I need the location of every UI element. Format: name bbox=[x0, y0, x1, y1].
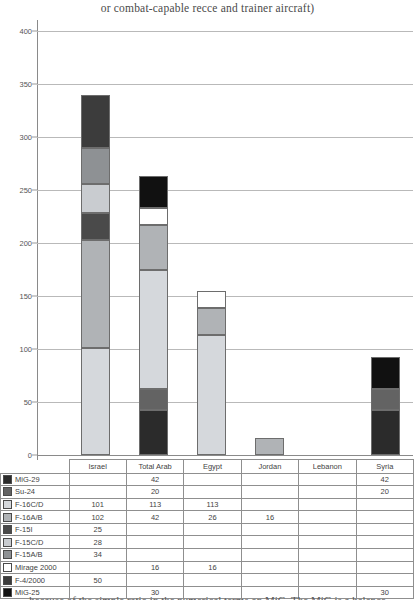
legend-swatch-icon bbox=[3, 538, 12, 547]
bar-segment-f-16a-b bbox=[197, 308, 226, 336]
bar-segment-f-16c-d bbox=[197, 335, 226, 455]
table-cell-syria bbox=[356, 523, 413, 536]
y-tick-label-400: 400 bbox=[19, 27, 32, 36]
table-cell-total-arab: 16 bbox=[126, 561, 183, 574]
table-cell-egypt bbox=[184, 486, 241, 499]
table-cell-syria bbox=[356, 511, 413, 524]
footer-clipped-text: because of the simple ratio in the numer… bbox=[0, 594, 415, 600]
bar-syria bbox=[371, 20, 400, 460]
y-tick-label-300: 300 bbox=[19, 133, 32, 142]
legend-label: F-15A/B bbox=[15, 550, 43, 559]
bar-segment-mig-29 bbox=[139, 410, 168, 455]
bar-total-arab bbox=[139, 20, 168, 460]
table-cell-lebanon bbox=[299, 561, 356, 574]
legend-swatch-icon bbox=[3, 563, 12, 572]
table-row: F-16C/D101113113 bbox=[1, 498, 414, 511]
table-cell-lebanon bbox=[299, 498, 356, 511]
table-header-syria: Syria bbox=[356, 460, 413, 474]
table-cell-israel bbox=[69, 486, 126, 499]
table-cell-egypt bbox=[184, 549, 241, 562]
y-axis: 050100150200250300350400 bbox=[0, 20, 36, 460]
table-cell-jordan bbox=[241, 473, 298, 486]
table-header-row: IsraelTotal ArabEgyptJordanLebanonSyria bbox=[1, 460, 414, 474]
table-cell-egypt bbox=[184, 574, 241, 587]
table-cell-israel bbox=[69, 473, 126, 486]
table-cell-total-arab bbox=[126, 574, 183, 587]
table-cell-total-arab: 42 bbox=[126, 473, 183, 486]
table-cell-lebanon bbox=[299, 523, 356, 536]
bar-segment-f-15a-b bbox=[81, 148, 110, 184]
table-cell-jordan bbox=[241, 523, 298, 536]
legend-swatch-icon bbox=[3, 525, 12, 534]
table-header-egypt: Egypt bbox=[184, 460, 241, 474]
legend-label: F-16C/D bbox=[15, 500, 43, 509]
legend-swatch-icon bbox=[3, 487, 12, 496]
legend-label: F-4/2000 bbox=[15, 576, 45, 585]
y-tick-label-150: 150 bbox=[19, 292, 32, 301]
table-header-jordan: Jordan bbox=[241, 460, 298, 474]
table-header-legend bbox=[1, 460, 70, 474]
data-table: IsraelTotal ArabEgyptJordanLebanonSyria … bbox=[0, 459, 414, 599]
y-axis-line bbox=[37, 20, 38, 460]
table-cell-lebanon bbox=[299, 536, 356, 549]
bar-segment-mig-29 bbox=[371, 410, 400, 455]
table-cell-lebanon bbox=[299, 511, 356, 524]
legend-cell: Mirage 2000 bbox=[1, 561, 70, 574]
bar-segment-mig-25 bbox=[139, 176, 168, 208]
table-cell-lebanon bbox=[299, 486, 356, 499]
table-header-lebanon: Lebanon bbox=[299, 460, 356, 474]
table-cell-jordan bbox=[241, 498, 298, 511]
bar-segment-f-16c-d bbox=[81, 348, 110, 455]
table-cell-egypt bbox=[184, 473, 241, 486]
table-cell-syria bbox=[356, 574, 413, 587]
table-header-israel: Israel bbox=[69, 460, 126, 474]
table-cell-syria bbox=[356, 498, 413, 511]
table-cell-egypt bbox=[184, 536, 241, 549]
legend-cell: F-15I bbox=[1, 523, 70, 536]
legend-swatch-icon bbox=[3, 576, 12, 585]
table-cell-syria bbox=[356, 561, 413, 574]
table-row: F-15A/B34 bbox=[1, 549, 414, 562]
legend-cell: F-4/2000 bbox=[1, 574, 70, 587]
table-cell-israel: 25 bbox=[69, 523, 126, 536]
bar-israel bbox=[81, 20, 110, 460]
legend-label: Su-24 bbox=[15, 487, 35, 496]
table-cell-syria: 20 bbox=[356, 486, 413, 499]
table-row: F-15I25 bbox=[1, 523, 414, 536]
table-cell-syria bbox=[356, 536, 413, 549]
table-row: F-4/200050 bbox=[1, 574, 414, 587]
table-body: MiG-294242Su-242020F-16C/D101113113F-16A… bbox=[1, 473, 414, 599]
table-cell-egypt: 16 bbox=[184, 561, 241, 574]
table-cell-israel: 101 bbox=[69, 498, 126, 511]
table-cell-israel: 102 bbox=[69, 511, 126, 524]
bar-segment-mig-25 bbox=[371, 357, 400, 389]
legend-label: F-15C/D bbox=[15, 538, 43, 547]
table-cell-jordan bbox=[241, 536, 298, 549]
legend-swatch-icon bbox=[3, 475, 12, 484]
table-cell-total-arab bbox=[126, 523, 183, 536]
table-cell-lebanon bbox=[299, 473, 356, 486]
table-row: MiG-294242 bbox=[1, 473, 414, 486]
table-cell-jordan bbox=[241, 561, 298, 574]
legend-swatch-icon bbox=[3, 513, 12, 522]
table-cell-total-arab: 42 bbox=[126, 511, 183, 524]
y-tick-label-350: 350 bbox=[19, 80, 32, 89]
bar-segment-f-15c-d bbox=[81, 184, 110, 214]
bar-segment-su-24 bbox=[139, 389, 168, 410]
y-tick-label-250: 250 bbox=[19, 186, 32, 195]
table-cell-egypt: 113 bbox=[184, 498, 241, 511]
table-cell-israel: 34 bbox=[69, 549, 126, 562]
chart-title: or combat-capable recce and trainer airc… bbox=[0, 0, 415, 18]
table-cell-total-arab bbox=[126, 536, 183, 549]
legend-cell: MiG-29 bbox=[1, 473, 70, 486]
table-cell-lebanon bbox=[299, 549, 356, 562]
legend-label: F-16A/B bbox=[15, 513, 43, 522]
legend-label: MiG-29 bbox=[15, 475, 40, 484]
table-cell-syria: 42 bbox=[356, 473, 413, 486]
table-row: F-15C/D28 bbox=[1, 536, 414, 549]
table-row: Mirage 20001616 bbox=[1, 561, 414, 574]
legend-label: Mirage 2000 bbox=[15, 563, 57, 572]
bar-segment-f-15i bbox=[81, 213, 110, 240]
table-cell-lebanon bbox=[299, 574, 356, 587]
bar-segment-f-4-2000 bbox=[81, 95, 110, 148]
